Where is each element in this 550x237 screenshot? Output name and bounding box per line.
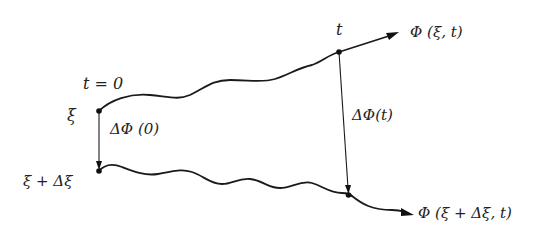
label-phi-xi-t: Φ (ξ, t) [410, 25, 463, 40]
node-end-upper [336, 49, 342, 55]
separation-final-line [339, 52, 348, 188]
label-xi: ξ [67, 108, 76, 124]
label-phi-xi-plus-delta-xi-t: Φ (ξ + Δξ, t) [418, 206, 512, 221]
label-delta-phi-zero: ΔΦ (0) [110, 122, 159, 137]
trajectory-upper-arrow-shaft [339, 35, 392, 52]
node-end-lower [346, 192, 352, 198]
label-delta-phi-t: ΔΦ(t) [352, 108, 393, 123]
trajectory-lower-arrow-shaft [352, 196, 406, 212]
label-t-zero: t = 0 [83, 76, 123, 92]
arrowhead-lower [401, 208, 414, 216]
trajectory-diagram [0, 0, 550, 237]
node-start-upper [96, 108, 102, 114]
arrowhead-upper [386, 32, 399, 40]
node-start-lower [96, 168, 102, 174]
trajectory-lower [99, 165, 352, 196]
trajectory-upper [99, 52, 339, 111]
label-xi-plus-delta-xi: ξ + Δξ [23, 174, 72, 189]
label-t: t [336, 22, 342, 38]
